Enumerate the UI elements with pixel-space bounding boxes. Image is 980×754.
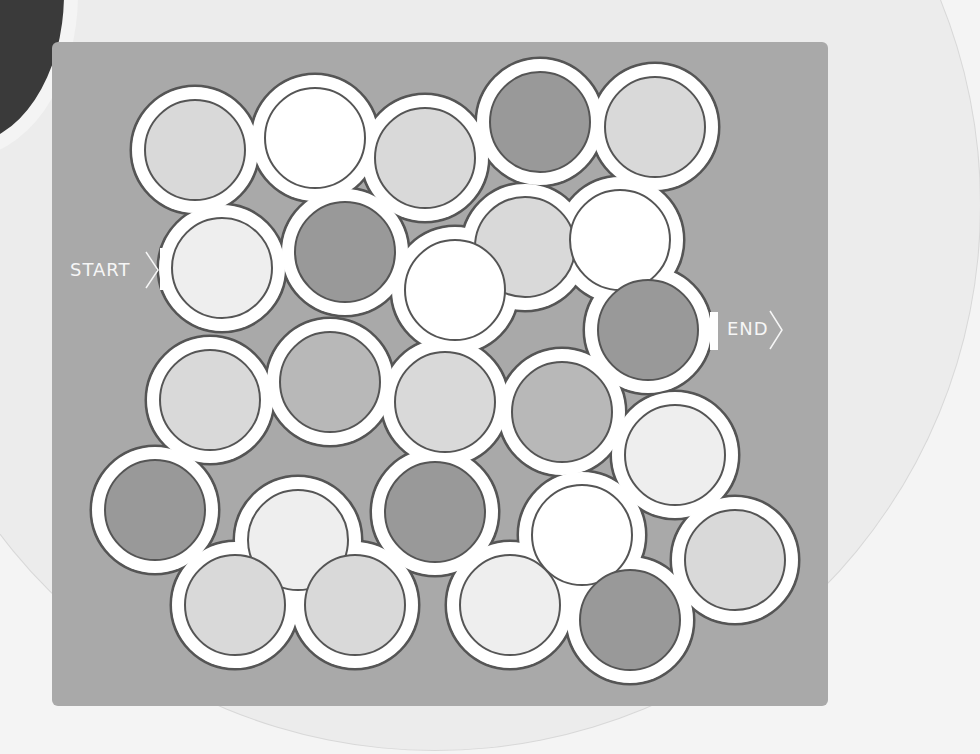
end-label: END — [727, 318, 769, 339]
start-chevron-icon — [146, 252, 158, 288]
maze-circle[interactable] — [295, 202, 395, 302]
maze-circle[interactable] — [598, 280, 698, 380]
maze-circle[interactable] — [580, 570, 680, 670]
maze-circle[interactable] — [460, 555, 560, 655]
maze-circle[interactable] — [570, 190, 670, 290]
maze-circle[interactable] — [512, 362, 612, 462]
maze-circle[interactable] — [490, 72, 590, 172]
maze-circle[interactable] — [265, 88, 365, 188]
maze-circle[interactable] — [145, 100, 245, 200]
maze-circle[interactable] — [280, 332, 380, 432]
maze-circle[interactable] — [185, 555, 285, 655]
maze-circle[interactable] — [685, 510, 785, 610]
maze-circle[interactable] — [375, 108, 475, 208]
start-label: START — [70, 259, 131, 280]
maze-circle[interactable] — [395, 352, 495, 452]
end-chevron-icon — [770, 311, 782, 349]
maze-circle[interactable] — [160, 350, 260, 450]
maze-circle[interactable] — [172, 218, 272, 318]
maze-circle[interactable] — [605, 77, 705, 177]
maze-circle[interactable] — [625, 405, 725, 505]
maze-circle[interactable] — [305, 555, 405, 655]
maze-circle[interactable] — [405, 240, 505, 340]
maze-circle[interactable] — [105, 460, 205, 560]
maze-circle[interactable] — [385, 462, 485, 562]
